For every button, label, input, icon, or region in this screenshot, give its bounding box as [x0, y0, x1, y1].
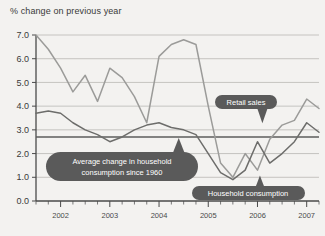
x-axis-label: 2002 — [52, 211, 69, 220]
x-axis-label: 2007 — [298, 211, 315, 220]
y-axis-label: 3.0 — [16, 125, 29, 135]
average-line-callout: Average change in household consumption … — [46, 138, 198, 181]
y-axis-label: 1.0 — [16, 172, 29, 182]
x-axis-label: 2005 — [200, 211, 217, 220]
y-axis-labels-group: 0.01.02.03.04.05.06.07.0 — [16, 30, 29, 206]
y-axis-label: 5.0 — [16, 78, 29, 88]
household-callout-label: Household consumption — [208, 189, 288, 198]
average-callout-line2: consumption since 1960 — [82, 168, 163, 177]
average-callout-line1: Average change in household — [72, 157, 171, 166]
y-axis-label: 2.0 — [16, 149, 29, 159]
x-axis-label: 2006 — [249, 211, 266, 220]
y-axis-label: 0.0 — [16, 196, 29, 206]
chart-svg: Average change in household consumption … — [0, 0, 325, 236]
y-axis-label: 4.0 — [16, 101, 29, 111]
x-axis-label: 2003 — [101, 211, 118, 220]
household-consumption-callout: Household consumption — [192, 175, 305, 200]
retail-callout-label: Retail sales — [227, 98, 266, 107]
x-axis-label: 2004 — [151, 211, 168, 220]
x-axis-ticks-group — [36, 201, 319, 207]
y-axis-label: 7.0 — [16, 30, 29, 40]
retail-sales-callout: Retail sales — [215, 95, 277, 123]
x-axis-labels-group: 200220032004200520062007 — [52, 211, 315, 220]
chart-container: % change on previous year Average change… — [0, 0, 325, 236]
y-axis-label: 6.0 — [16, 54, 29, 64]
